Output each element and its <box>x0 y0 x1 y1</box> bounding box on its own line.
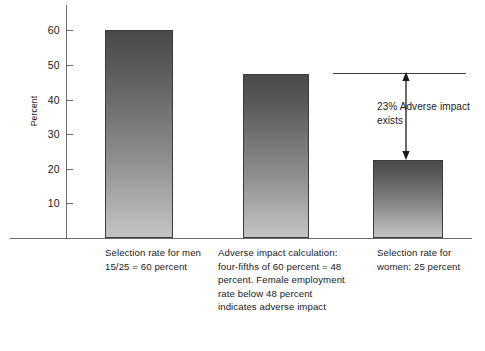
y-tick-label-60: 60 <box>36 24 60 36</box>
adverse-impact-annotation-label: 23% Adverse impact exists <box>377 100 482 127</box>
bar-adverse-impact-calculation <box>243 74 309 238</box>
category-caption-adverse-impact: Adverse impact calculation: four-fifths … <box>218 246 348 314</box>
y-tick-label-30: 30 <box>36 128 60 140</box>
y-tick-20 <box>66 169 73 170</box>
y-tick-label-50: 50 <box>36 59 60 71</box>
y-tick-label-40: 40 <box>36 94 60 106</box>
y-tick-label-10: 10 <box>36 197 60 209</box>
x-axis-line <box>10 238 472 239</box>
bar-selection-rate-men <box>105 30 173 238</box>
y-tick-30 <box>66 134 73 135</box>
bar-chart: Percent 60 50 40 30 20 10 23% Adverse im… <box>0 0 485 351</box>
y-tick-60 <box>66 30 73 31</box>
y-tick-40 <box>66 100 73 101</box>
category-caption-women: Selection rate for women: 25 percent <box>377 246 482 273</box>
bar-selection-rate-women <box>373 160 443 238</box>
category-caption-men: Selection rate for men 15/25 = 60 percen… <box>105 246 225 273</box>
y-tick-label-20: 20 <box>36 163 60 175</box>
y-tick-50 <box>66 65 73 66</box>
y-tick-10 <box>66 203 73 204</box>
